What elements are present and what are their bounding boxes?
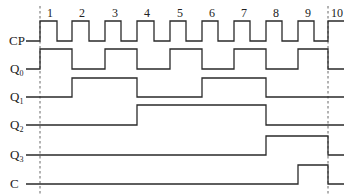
pulse-number: 5	[177, 6, 183, 20]
pulse-number: 3	[112, 6, 118, 20]
signal-label-q0: Q0	[10, 61, 23, 78]
timing-diagram: 1 2 3 4 5 6 7 8 9 10 CP Q0 Q1 Q2 Q3 C	[0, 0, 354, 196]
pulse-number: 9	[305, 6, 311, 20]
signal-labels: CP Q0 Q1 Q2 Q3 C	[9, 33, 25, 191]
pulse-number: 7	[241, 6, 247, 20]
waveform-cp	[26, 21, 344, 41]
waveform-c	[26, 165, 344, 184]
waveform-q0	[26, 49, 344, 69]
pulse-number: 10	[331, 6, 343, 20]
pulse-number: 2	[79, 6, 85, 20]
pulse-number: 1	[47, 6, 53, 20]
signal-label-cp: CP	[9, 33, 25, 48]
waveform-q3	[26, 136, 344, 155]
pulse-number: 8	[273, 6, 279, 20]
pulse-numbers: 1 2 3 4 5 6 7 8 9 10	[47, 6, 343, 20]
signal-label-q2: Q2	[10, 117, 23, 134]
pulse-number: 6	[209, 6, 215, 20]
signal-label-q1: Q1	[10, 89, 23, 106]
waveform-q1	[26, 78, 344, 97]
signal-label-q3: Q3	[10, 147, 23, 164]
pulse-number: 4	[144, 6, 150, 20]
signal-label-c: C	[10, 176, 19, 191]
waveform-q2	[26, 105, 344, 125]
